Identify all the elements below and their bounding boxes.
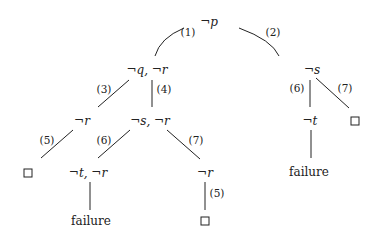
edge-label-5: (5) bbox=[40, 134, 55, 146]
edge-label-10: (7) bbox=[338, 82, 353, 94]
empty-clause-box-right bbox=[351, 117, 360, 126]
node-failure-left: failure bbox=[71, 214, 111, 228]
edge-label-3: (3) bbox=[97, 83, 112, 95]
node-neg-s-neg-r: ¬s, ¬r bbox=[130, 114, 170, 128]
edge-label-4: (4) bbox=[157, 83, 172, 95]
node-root: ¬p bbox=[200, 15, 218, 29]
node-neg-s: ¬s bbox=[304, 63, 320, 77]
edge-label-1: (1) bbox=[181, 26, 196, 38]
edge-label-9: (6) bbox=[290, 82, 305, 94]
edge-label-7: (7) bbox=[189, 134, 204, 146]
node-failure-right: failure bbox=[289, 165, 329, 179]
node-neg-q-neg-r: ¬q, ¬r bbox=[126, 63, 167, 77]
node-neg-r-right: ¬r bbox=[197, 166, 213, 180]
edge-label-6: (6) bbox=[97, 134, 112, 146]
edge-label-2: (2) bbox=[266, 26, 281, 38]
empty-clause-box-middle bbox=[201, 217, 210, 226]
empty-clause-box-left bbox=[24, 169, 33, 178]
edge-label-8: (5) bbox=[210, 187, 225, 199]
node-neg-r-left: ¬r bbox=[74, 114, 90, 128]
node-neg-t: ¬t bbox=[303, 114, 318, 128]
node-neg-t-neg-r: ¬t, ¬r bbox=[69, 166, 107, 180]
